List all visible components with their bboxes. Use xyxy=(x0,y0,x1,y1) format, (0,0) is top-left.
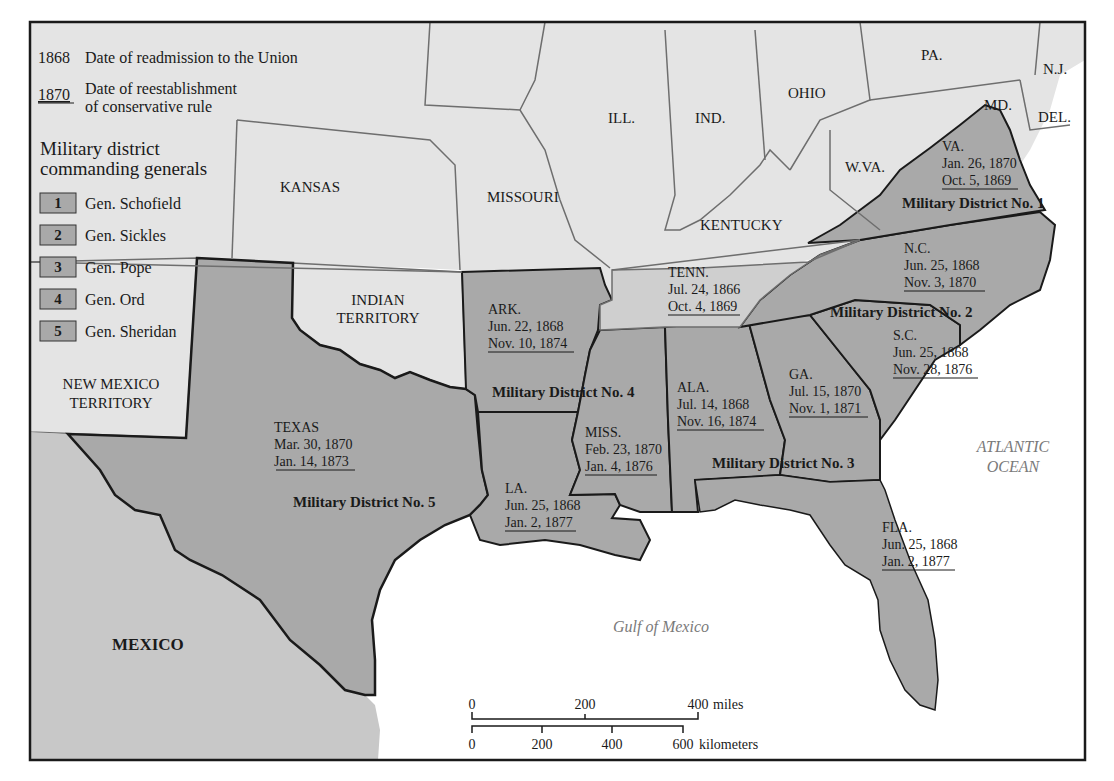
label-mexico: MEXICO xyxy=(112,635,184,654)
label-del: DEL. xyxy=(1038,109,1071,125)
svg-text:Jul. 24, 1866: Jul. 24, 1866 xyxy=(668,282,740,297)
svg-text:5: 5 xyxy=(54,323,62,339)
label-indian-territory-2: TERRITORY xyxy=(336,310,419,326)
reconstruction-military-districts-map: 1868 Date of readmission to the Union 18… xyxy=(0,0,1114,781)
label-md: MD. xyxy=(984,97,1012,113)
svg-text:0: 0 xyxy=(469,697,476,712)
legend-heading-2: commanding generals xyxy=(40,158,207,179)
svg-text:LA.: LA. xyxy=(505,481,527,496)
label-atlantic-2: OCEAN xyxy=(987,458,1041,475)
svg-text:600: 600 xyxy=(673,737,694,752)
label-missouri: MISSOURI xyxy=(487,189,559,205)
legend-heading-1: Military district xyxy=(40,138,161,159)
svg-text:FLA.: FLA. xyxy=(882,520,912,535)
legend-district-5: 5 Gen. Sheridan xyxy=(40,321,177,341)
label-district-5: Military District No. 5 xyxy=(293,494,435,510)
svg-text:S.C.: S.C. xyxy=(893,328,917,343)
svg-text:Jan. 2, 1877: Jan. 2, 1877 xyxy=(505,515,573,530)
svg-text:ARK.: ARK. xyxy=(488,302,521,317)
label-wva: W.VA. xyxy=(845,159,885,175)
label-ohio: OHIO xyxy=(788,85,826,101)
label-nj: N.J. xyxy=(1043,61,1067,77)
svg-text:400: 400 xyxy=(602,737,623,752)
svg-text:Nov. 1, 1871: Nov. 1, 1871 xyxy=(789,401,861,416)
label-ill: ILL. xyxy=(608,110,635,126)
label-new-mexico-2: TERRITORY xyxy=(69,395,152,411)
svg-text:Nov. 3, 1870: Nov. 3, 1870 xyxy=(904,275,976,290)
svg-text:Jun. 25, 1868: Jun. 25, 1868 xyxy=(893,345,968,360)
svg-text:Jan. 4, 1876: Jan. 4, 1876 xyxy=(585,459,653,474)
svg-text:200: 200 xyxy=(575,697,596,712)
svg-text:1: 1 xyxy=(54,195,62,211)
svg-text:4: 4 xyxy=(54,291,62,307)
svg-text:2: 2 xyxy=(54,227,62,243)
svg-text:Jun. 25, 1868: Jun. 25, 1868 xyxy=(505,498,580,513)
svg-text:Nov. 10, 1874: Nov. 10, 1874 xyxy=(488,336,567,351)
label-kansas: KANSAS xyxy=(280,179,340,195)
svg-text:VA.: VA. xyxy=(942,139,964,154)
label-district-3: Military District No. 3 xyxy=(712,455,854,471)
svg-text:Gen. Schofield: Gen. Schofield xyxy=(85,195,181,212)
svg-text:TEXAS: TEXAS xyxy=(274,420,319,435)
svg-text:Gen. Pope: Gen. Pope xyxy=(85,259,152,277)
svg-text:MISS.: MISS. xyxy=(585,425,621,440)
legend-district-2: 2 Gen. Sickles xyxy=(40,225,166,245)
svg-text:N.C.: N.C. xyxy=(904,241,930,256)
svg-text:Gen. Ord: Gen. Ord xyxy=(85,291,145,308)
svg-text:200: 200 xyxy=(532,737,553,752)
svg-text:Jan. 26, 1870: Jan. 26, 1870 xyxy=(942,156,1017,171)
label-ind: IND. xyxy=(695,110,725,126)
label-new-mexico-1: NEW MEXICO xyxy=(63,376,160,392)
legend-conservative-text-1: Date of reestablishment xyxy=(85,80,238,97)
svg-text:3: 3 xyxy=(54,259,62,275)
svg-text:Gen. Sickles: Gen. Sickles xyxy=(85,227,166,244)
svg-text:Mar. 30, 1870: Mar. 30, 1870 xyxy=(274,437,353,452)
label-gulf-of-mexico: Gulf of Mexico xyxy=(613,618,709,636)
svg-text:Nov. 28, 1876: Nov. 28, 1876 xyxy=(893,362,972,377)
svg-text:Oct. 5, 1869: Oct. 5, 1869 xyxy=(942,173,1011,188)
label-atlantic-1: ATLANTIC xyxy=(976,438,1050,455)
svg-text:kilometers: kilometers xyxy=(699,737,758,752)
svg-text:Oct. 4, 1869: Oct. 4, 1869 xyxy=(668,299,737,314)
legend-district-3: 3 Gen. Pope xyxy=(40,257,152,277)
label-district-1: Military District No. 1 xyxy=(902,195,1044,211)
legend-conservative-text-2: of conservative rule xyxy=(85,98,212,115)
legend-conservative-year: 1870 xyxy=(38,86,70,103)
label-district-2: Military District No. 2 xyxy=(830,304,972,320)
label-district-4: Military District No. 4 xyxy=(492,384,635,400)
legend-district-1: 1 Gen. Schofield xyxy=(40,193,181,213)
legend-readmission-year: 1868 xyxy=(38,49,70,66)
svg-text:Gen. Sheridan: Gen. Sheridan xyxy=(85,323,177,340)
svg-text:Feb. 23, 1870: Feb. 23, 1870 xyxy=(585,442,662,457)
svg-text:GA.: GA. xyxy=(789,367,813,382)
legend-district-4: 4 Gen. Ord xyxy=(40,289,145,309)
label-kentucky: KENTUCKY xyxy=(700,217,783,233)
svg-text:Jul. 14, 1868: Jul. 14, 1868 xyxy=(677,397,749,412)
svg-text:Nov. 16, 1874: Nov. 16, 1874 xyxy=(677,414,756,429)
new-mexico-territory xyxy=(30,258,197,438)
svg-text:Jan. 2, 1877: Jan. 2, 1877 xyxy=(882,554,950,569)
svg-text:ALA.: ALA. xyxy=(677,380,709,395)
svg-text:400: 400 xyxy=(688,697,709,712)
svg-text:0: 0 xyxy=(469,737,476,752)
label-pa: PA. xyxy=(921,47,943,63)
svg-text:TENN.: TENN. xyxy=(668,265,709,280)
label-indian-territory-1: INDIAN xyxy=(351,292,404,308)
svg-text:miles: miles xyxy=(713,697,743,712)
svg-text:Jan. 14, 1873: Jan. 14, 1873 xyxy=(274,454,349,469)
svg-text:Jun. 25, 1868: Jun. 25, 1868 xyxy=(904,258,979,273)
legend-readmission-text: Date of readmission to the Union xyxy=(85,49,298,66)
svg-text:Jun. 25, 1868: Jun. 25, 1868 xyxy=(882,537,957,552)
svg-text:Jul. 15, 1870: Jul. 15, 1870 xyxy=(789,384,861,399)
svg-text:Jun. 22, 1868: Jun. 22, 1868 xyxy=(488,319,563,334)
